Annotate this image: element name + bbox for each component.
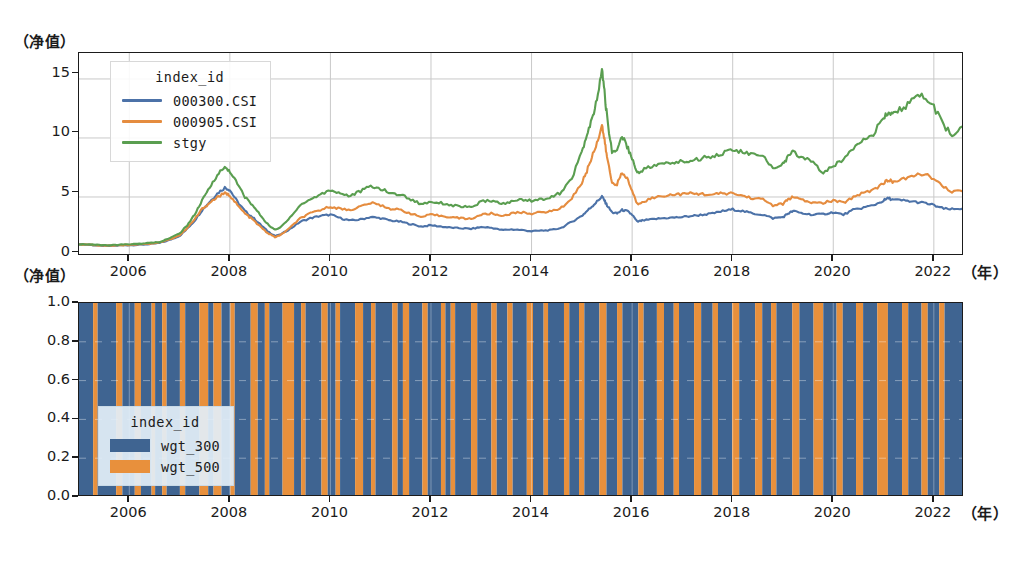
top-xtick-label-2018: 2018	[702, 263, 762, 279]
legend-item-wgt500[interactable]: wgt_500	[110, 456, 220, 477]
figure-canvas: （净值） 15 10 5 0 index_id 000300.CSI 00090…	[0, 0, 1027, 561]
bottom-ytick-label-0.4: 0.4	[10, 409, 70, 425]
bottom-xtickmark-2014	[530, 496, 532, 502]
bottom-ytick-label-0.0: 0.0	[10, 487, 70, 503]
bottom-xtickmark-2012	[429, 496, 431, 502]
bottom-xtick-label-2012: 2012	[400, 504, 460, 520]
bottom-xtick-label-2008: 2008	[199, 504, 259, 520]
bottom-xtick-label-2018: 2018	[702, 504, 762, 520]
bottom-ytickmark-1.0	[72, 301, 78, 303]
top-xtickmark-2018	[731, 255, 733, 261]
legend-item-000905[interactable]: 000905.CSI	[122, 111, 257, 132]
legend-swatch-wgt300	[110, 439, 150, 452]
bottom-xtickmark-2010	[329, 496, 331, 502]
top-ytickmark-15	[72, 72, 78, 74]
top-ytickmark-0	[72, 251, 78, 253]
legend-label-stgy: stgy	[173, 135, 207, 151]
bottom-chart-legend: index_id wgt_300 wgt_500	[98, 406, 234, 486]
top-ytickmark-10	[72, 131, 78, 133]
top-xtick-label-2020: 2020	[802, 263, 862, 279]
top-xtickmark-2012	[429, 255, 431, 261]
legend-swatch-000905	[122, 120, 162, 123]
legend-swatch-wgt500	[110, 460, 150, 473]
bottom-xtickmark-2018	[731, 496, 733, 502]
bottom-xtickmark-2016	[630, 496, 632, 502]
legend-label-wgt300: wgt_300	[161, 438, 220, 454]
top-ytick-10: 10	[26, 123, 70, 139]
bottom-xtick-label-2022: 2022	[903, 504, 963, 520]
legend-swatch-stgy	[122, 141, 162, 144]
top-xtick-label-2012: 2012	[400, 263, 460, 279]
legend-label-000300: 000300.CSI	[173, 93, 257, 109]
bottom-ytick-label-1.0: 1.0	[10, 293, 70, 309]
bottom-ytickmark-0.0	[72, 495, 78, 497]
bottom-xtick-label-2020: 2020	[802, 504, 862, 520]
top-xtick-label-2016: 2016	[601, 263, 661, 279]
top-xtickmark-2010	[329, 255, 331, 261]
top-ytick-15: 15	[26, 64, 70, 80]
top-ytick-5: 5	[26, 183, 70, 199]
top-ytick-0: 0	[26, 243, 70, 259]
top-xtick-label-2014: 2014	[501, 263, 561, 279]
bottom-ytickmark-0.2	[72, 456, 78, 458]
legend-title: index_id	[110, 414, 220, 430]
legend-item-000300[interactable]: 000300.CSI	[122, 90, 257, 111]
legend-swatch-000300	[122, 99, 162, 102]
top-xtickmark-2014	[530, 255, 532, 261]
bottom-xtickmark-2020	[831, 496, 833, 502]
top-chart-x-axis-label: （年）	[962, 261, 1008, 282]
bottom-xtick-label-2014: 2014	[501, 504, 561, 520]
top-chart-y-axis-label: （净值）	[14, 30, 76, 51]
bottom-xtick-label-2006: 2006	[98, 504, 158, 520]
bottom-xtickmark-2006	[127, 496, 129, 502]
top-xtickmark-2020	[831, 255, 833, 261]
bottom-ytick-label-0.2: 0.2	[10, 448, 70, 464]
bottom-ytickmark-0.6	[72, 379, 78, 381]
top-xtickmark-2008	[228, 255, 230, 261]
top-xtick-label-2010: 2010	[299, 263, 359, 279]
legend-title: index_id	[122, 69, 257, 85]
legend-item-stgy[interactable]: stgy	[122, 132, 257, 153]
bottom-xtickmark-2022	[932, 496, 934, 502]
top-chart-legend: index_id 000300.CSI 000905.CSI stgy	[110, 61, 271, 162]
bottom-ytickmark-0.8	[72, 340, 78, 342]
legend-item-wgt300[interactable]: wgt_300	[110, 435, 220, 456]
bottom-xtick-label-2010: 2010	[299, 504, 359, 520]
top-xtick-label-2022: 2022	[903, 263, 963, 279]
bottom-xtick-label-2016: 2016	[601, 504, 661, 520]
top-xtick-label-2008: 2008	[199, 263, 259, 279]
legend-label-wgt500: wgt_500	[161, 459, 220, 475]
top-xtickmark-2006	[127, 255, 129, 261]
bottom-chart-y-axis-label: （净值）	[14, 264, 76, 285]
top-ytickmark-5	[72, 191, 78, 193]
top-xtickmark-2022	[932, 255, 934, 261]
bottom-ytick-label-0.6: 0.6	[10, 371, 70, 387]
top-xtickmark-2016	[630, 255, 632, 261]
bottom-chart-x-axis-label: （年）	[962, 502, 1008, 523]
top-xtick-label-2006: 2006	[98, 263, 158, 279]
legend-label-000905: 000905.CSI	[173, 114, 257, 130]
bottom-ytick-label-0.8: 0.8	[10, 332, 70, 348]
bottom-ytickmark-0.4	[72, 418, 78, 420]
bottom-xtickmark-2008	[228, 496, 230, 502]
